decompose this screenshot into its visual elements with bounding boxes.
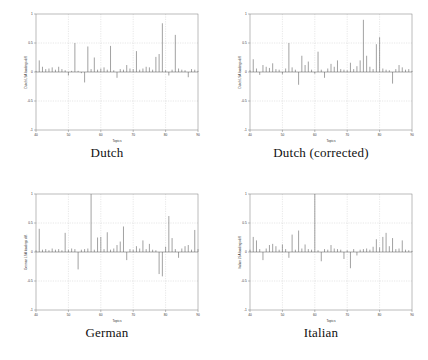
svg-text:80: 80 xyxy=(164,313,168,317)
svg-text:Dutch LSA loadings diff.: Dutch LSA loadings diff. xyxy=(238,55,242,88)
chart-panel-dutch: 40506070809010.50-0.5-1TopicsDutch LSA l… xyxy=(0,0,214,180)
chart-cell-3: 40506070809010.50-0.5-1TopicsItalian LSA… xyxy=(214,180,428,360)
svg-text:40: 40 xyxy=(34,313,38,317)
figure-panel-grid: 40506070809010.50-0.5-1TopicsDutch LSA l… xyxy=(0,0,428,360)
svg-text:Topics: Topics xyxy=(112,139,121,143)
svg-text:0.5: 0.5 xyxy=(242,221,247,225)
svg-text:0: 0 xyxy=(245,70,247,74)
svg-text:German LSA loadings diff.: German LSA loadings diff. xyxy=(24,234,28,270)
svg-text:40: 40 xyxy=(34,133,38,137)
panel-caption-dutch: Dutch xyxy=(0,145,214,161)
svg-text:60: 60 xyxy=(313,133,317,137)
chart-cell-0: 40506070809010.50-0.5-1TopicsDutch LSA l… xyxy=(0,0,214,180)
svg-text:50: 50 xyxy=(281,313,285,317)
svg-text:1: 1 xyxy=(31,12,33,16)
svg-text:Dutch LSA loadings diff.: Dutch LSA loadings diff. xyxy=(24,55,28,88)
chart-panel-italian: 40506070809010.50-0.5-1TopicsItalian LSA… xyxy=(214,180,428,360)
svg-text:-0.5: -0.5 xyxy=(241,99,247,103)
svg-text:0: 0 xyxy=(31,70,33,74)
svg-text:80: 80 xyxy=(164,133,168,137)
chart-panel-german: 40506070809010.50-0.5-1TopicsGerman LSA … xyxy=(0,180,214,360)
svg-text:-1: -1 xyxy=(30,128,33,132)
svg-text:Italian LSA loadings diff.: Italian LSA loadings diff. xyxy=(238,235,242,268)
svg-text:Topics: Topics xyxy=(326,139,335,143)
chart-cell-1: 40506070809010.50-0.5-1TopicsDutch LSA l… xyxy=(214,0,428,180)
svg-text:0: 0 xyxy=(31,250,33,254)
svg-text:60: 60 xyxy=(99,313,103,317)
svg-text:50: 50 xyxy=(67,313,71,317)
svg-text:0: 0 xyxy=(245,250,247,254)
svg-text:Topics: Topics xyxy=(112,319,121,323)
svg-text:90: 90 xyxy=(196,133,200,137)
svg-text:1: 1 xyxy=(245,192,247,196)
svg-text:0.5: 0.5 xyxy=(242,41,247,45)
svg-text:-0.5: -0.5 xyxy=(241,279,247,283)
svg-text:50: 50 xyxy=(281,133,285,137)
svg-text:70: 70 xyxy=(345,133,349,137)
svg-text:70: 70 xyxy=(131,313,135,317)
chart-panel-dutch-corrected: 40506070809010.50-0.5-1TopicsDutch LSA l… xyxy=(214,0,428,180)
panel-caption-italian: Italian xyxy=(214,325,428,341)
svg-text:90: 90 xyxy=(410,313,414,317)
svg-text:1: 1 xyxy=(245,12,247,16)
svg-text:80: 80 xyxy=(378,313,382,317)
panel-caption-dutch-corrected: Dutch (corrected) xyxy=(214,145,428,161)
chart-cell-2: 40506070809010.50-0.5-1TopicsGerman LSA … xyxy=(0,180,214,360)
svg-text:70: 70 xyxy=(345,313,349,317)
svg-text:90: 90 xyxy=(410,133,414,137)
panel-caption-german: German xyxy=(0,325,214,341)
svg-text:1: 1 xyxy=(31,192,33,196)
svg-text:40: 40 xyxy=(248,313,252,317)
svg-text:60: 60 xyxy=(313,313,317,317)
svg-text:-0.5: -0.5 xyxy=(27,279,33,283)
svg-text:80: 80 xyxy=(378,133,382,137)
svg-text:40: 40 xyxy=(248,133,252,137)
svg-text:0.5: 0.5 xyxy=(28,221,33,225)
svg-text:-1: -1 xyxy=(244,128,247,132)
svg-text:Topics: Topics xyxy=(326,319,335,323)
svg-text:-0.5: -0.5 xyxy=(27,99,33,103)
svg-text:-1: -1 xyxy=(30,308,33,312)
svg-text:60: 60 xyxy=(99,133,103,137)
svg-text:-1: -1 xyxy=(244,308,247,312)
svg-text:0.5: 0.5 xyxy=(28,41,33,45)
svg-text:90: 90 xyxy=(196,313,200,317)
svg-text:50: 50 xyxy=(67,133,71,137)
svg-text:70: 70 xyxy=(131,133,135,137)
